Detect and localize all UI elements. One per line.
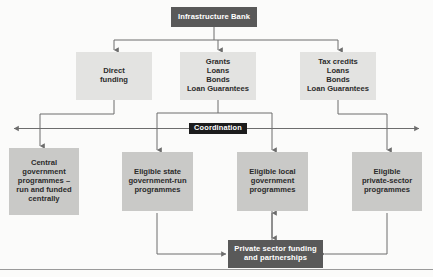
node-coordination: Coordination [189,123,247,134]
node-grants-loans-bonds-guarantees: Grants Loans Bonds Loan Guarantees [180,52,256,100]
connector-lines [0,0,433,277]
node-eligible-private-sector-programmes: Eligible private-sector programmes [352,152,422,211]
node-eligible-state-programmes: Eligible state government-run programmes [122,152,193,211]
node-eligible-state-label: Eligible state government-run programmes [128,168,186,195]
node-eligible-local-label: Eligible local government programmes [249,168,295,195]
wire-state-to-funding [157,213,226,254]
node-infrastructure-bank-label: Infrastructure Bank [178,13,250,22]
node-direct-funding-label: Direct funding [100,67,128,85]
node-eligible-local-programmes: Eligible local government programmes [237,152,308,211]
node-central-government-label: Central government programmes – run and … [16,159,71,204]
wire-direct-to-central [40,100,114,146]
node-tax-credits-loans-bonds-guarantees: Tax credits Loans Bonds Loan Guarantees [300,52,376,100]
node-private-sector-funding-partnerships: Private sector funding and partnerships [228,240,323,268]
node-infrastructure-bank: Infrastructure Bank [171,7,257,27]
diagram-canvas: Infrastructure Bank Direct funding Grant… [0,0,433,277]
node-tax-credits-group-label: Tax credits Loans Bonds Loan Guarantees [307,58,369,94]
node-coordination-label: Coordination [194,124,242,133]
bottom-divider [0,269,433,270]
wire-private-to-funding [325,213,387,254]
node-grants-group-label: Grants Loans Bonds Loan Guarantees [187,58,249,94]
node-eligible-private-label: Eligible private-sector programmes [362,168,412,195]
wire-tax-to-private [338,100,387,150]
node-central-government-programmes: Central government programmes – run and … [9,148,79,215]
node-direct-funding: Direct funding [76,52,152,100]
node-private-funding-label: Private sector funding and partnerships [234,245,316,263]
